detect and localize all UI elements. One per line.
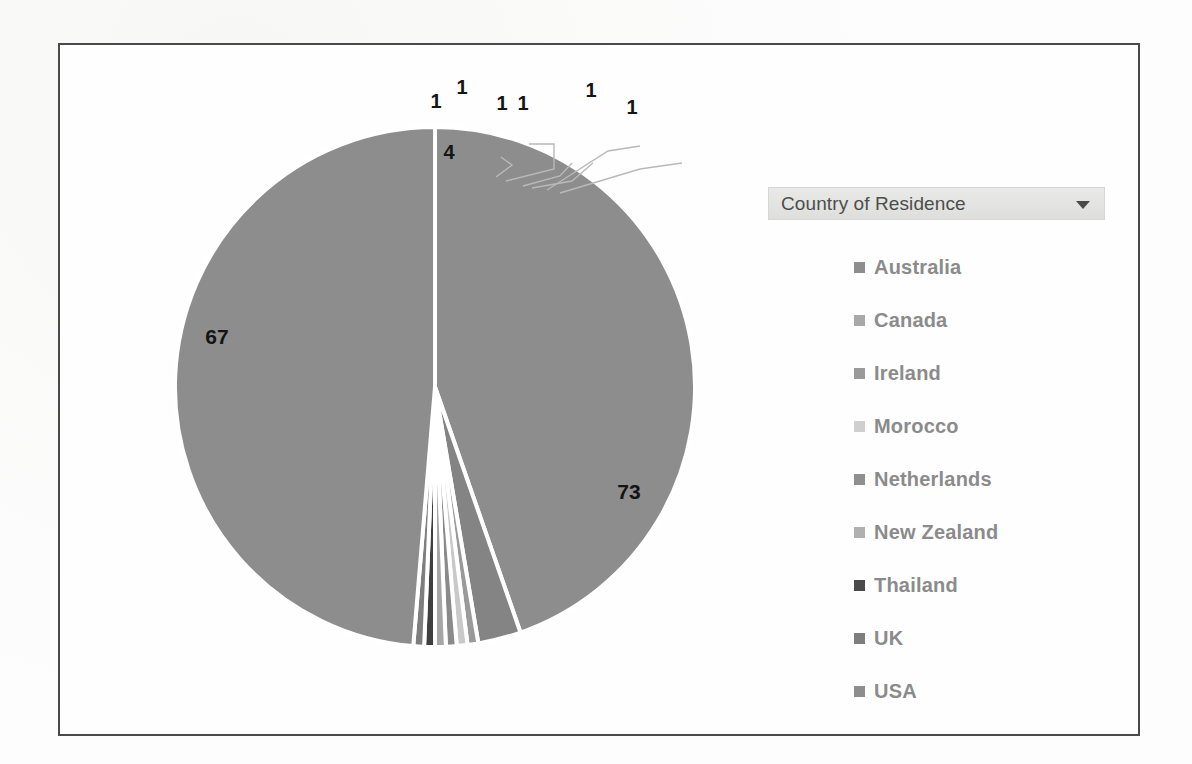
- pie-slices-group: [175, 127, 695, 647]
- legend-item-label: Thailand: [874, 574, 958, 597]
- legend-item-label: Australia: [874, 256, 961, 279]
- legend-filter-label: Country of Residence: [781, 193, 966, 215]
- legend-swatch-icon: [854, 315, 865, 326]
- legend-swatch-icon: [854, 633, 865, 644]
- legend-item-morocco[interactable]: Morocco: [854, 400, 1113, 453]
- pie-data-label: 1: [496, 92, 507, 114]
- pie-chart-area: 46773111111: [60, 45, 820, 738]
- legend-item-new-zealand[interactable]: New Zealand: [854, 506, 1113, 559]
- legend-items-list: AustraliaCanadaIrelandMoroccoNetherlands…: [768, 241, 1113, 718]
- pie-data-label: 1: [430, 90, 441, 112]
- legend-item-uk[interactable]: UK: [854, 612, 1113, 665]
- chevron-down-icon[interactable]: [1076, 201, 1090, 209]
- legend-item-usa[interactable]: USA: [854, 665, 1113, 718]
- pie-data-label: 4: [443, 141, 455, 163]
- legend-item-australia[interactable]: Australia: [854, 241, 1113, 294]
- pie-chart-svg: 46773111111: [60, 45, 820, 738]
- pie-data-label: 1: [517, 92, 528, 114]
- legend-item-label: Netherlands: [874, 468, 992, 491]
- legend-swatch-icon: [854, 262, 865, 273]
- legend-item-label: New Zealand: [874, 521, 998, 544]
- legend-item-thailand[interactable]: Thailand: [854, 559, 1113, 612]
- legend-filter-button[interactable]: Country of Residence: [768, 187, 1105, 220]
- legend-swatch-icon: [854, 421, 865, 432]
- legend-swatch-icon: [854, 580, 865, 591]
- pie-data-label: 1: [585, 79, 596, 101]
- legend-item-label: UK: [874, 627, 903, 650]
- legend-item-canada[interactable]: Canada: [854, 294, 1113, 347]
- legend-swatch-icon: [854, 686, 865, 697]
- legend-item-label: Canada: [874, 309, 947, 332]
- pie-slice-usa[interactable]: [175, 127, 435, 646]
- legend-item-label: USA: [874, 680, 917, 703]
- pie-data-label: 1: [626, 96, 637, 118]
- legend-item-label: Morocco: [874, 415, 959, 438]
- legend-item-label: Ireland: [874, 362, 941, 385]
- legend-swatch-icon: [854, 527, 865, 538]
- pie-data-label: 67: [205, 325, 228, 348]
- legend-swatch-icon: [854, 474, 865, 485]
- pie-data-label: 1: [456, 76, 467, 98]
- legend-swatch-icon: [854, 368, 865, 379]
- pie-data-label: 73: [617, 480, 640, 503]
- chart-frame: 46773111111 Country of Residence Austral…: [58, 43, 1140, 736]
- legend-item-netherlands[interactable]: Netherlands: [854, 453, 1113, 506]
- legend-item-ireland[interactable]: Ireland: [854, 347, 1113, 400]
- legend: Country of Residence AustraliaCanadaIrel…: [768, 187, 1113, 718]
